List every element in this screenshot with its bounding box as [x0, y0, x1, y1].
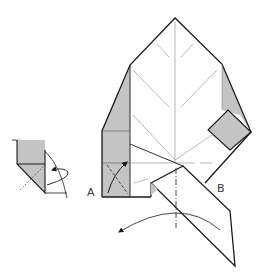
origami-diagram — [0, 0, 260, 273]
label-point-a: A — [87, 186, 95, 199]
inset-detail — [12, 140, 68, 198]
flap — [151, 166, 235, 266]
fold-behind-arrow-icon — [47, 169, 68, 185]
label-point-b: B — [217, 182, 225, 195]
